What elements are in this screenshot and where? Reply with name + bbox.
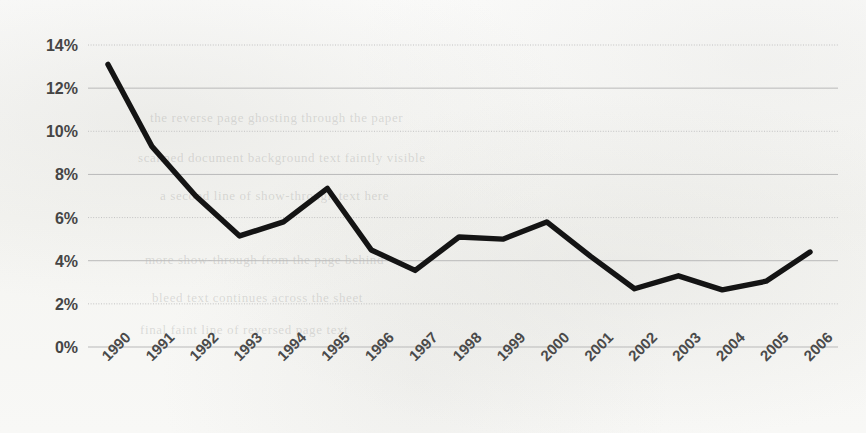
- gridlines: [88, 45, 838, 347]
- x-axis-tick-label: 1991: [142, 329, 178, 365]
- y-axis-tick-label: 10%: [46, 123, 78, 140]
- chart-canvas: 0%2%4%6%8%10%12%14% 19901991199219931994…: [0, 0, 866, 433]
- data-series-line: [108, 64, 810, 289]
- x-axis-tick-label: 1999: [493, 329, 529, 365]
- x-axis-tick-label: 1997: [405, 329, 441, 365]
- x-axis-tick-label: 2001: [581, 329, 617, 365]
- x-axis-tick-label: 2000: [537, 329, 573, 365]
- y-axis-tick-label: 14%: [46, 37, 78, 54]
- y-axis-tick-label: 4%: [55, 253, 78, 270]
- x-axis-tick-label: 2004: [712, 328, 748, 364]
- y-axis-tick-label: 6%: [55, 210, 78, 227]
- x-axis-tick-label: 1994: [274, 328, 310, 364]
- x-axis-tick-label: 1992: [186, 329, 222, 365]
- x-axis-tick-label: 2006: [800, 329, 836, 365]
- y-axis-labels: 0%2%4%6%8%10%12%14%: [46, 37, 78, 356]
- y-axis-tick-label: 12%: [46, 80, 78, 97]
- x-axis-tick-label: 2003: [668, 329, 704, 365]
- x-axis-labels: 1990199119921993199419951996199719981999…: [98, 328, 836, 364]
- x-axis-tick-label: 1993: [230, 329, 266, 365]
- x-axis-tick-label: 1998: [449, 329, 485, 365]
- y-axis-tick-label: 8%: [55, 166, 78, 183]
- line-chart: 0%2%4%6%8%10%12%14% 19901991199219931994…: [0, 0, 866, 433]
- x-axis-tick-label: 1996: [361, 329, 397, 365]
- x-axis-tick-label: 1990: [98, 329, 134, 365]
- x-axis-tick-label: 2002: [625, 329, 661, 365]
- x-axis-tick-label: 1995: [317, 329, 353, 365]
- y-axis-tick-label: 2%: [55, 296, 78, 313]
- x-axis-tick-label: 2005: [756, 329, 792, 365]
- y-axis-tick-label: 0%: [55, 339, 78, 356]
